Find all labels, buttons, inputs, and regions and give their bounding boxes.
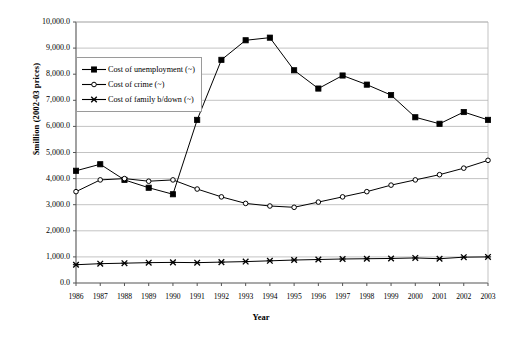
data-point-marker — [91, 67, 96, 72]
data-point-marker — [267, 258, 273, 264]
data-point-marker — [73, 168, 78, 173]
series-line — [76, 257, 488, 265]
data-point-marker — [437, 172, 442, 177]
series-cross-x — [73, 254, 491, 267]
data-point-marker — [97, 261, 103, 267]
data-point-marker — [365, 189, 370, 194]
x-axis-tick-labels: 1986198719881989199019911992199319941995… — [76, 293, 488, 307]
data-point-marker — [461, 109, 466, 114]
data-point-marker — [243, 201, 248, 206]
data-point-marker — [268, 204, 273, 209]
data-point-marker — [122, 176, 127, 181]
data-point-marker — [121, 260, 127, 266]
chart-legend: Cost of unemployment (~)Cost of crime (~… — [76, 57, 202, 112]
data-point-marker — [267, 35, 272, 40]
data-point-marker — [364, 82, 369, 87]
data-point-marker — [74, 189, 79, 194]
data-point-marker — [315, 257, 321, 263]
data-point-marker — [316, 86, 321, 91]
data-point-marker — [171, 178, 176, 183]
legend-marker-icon — [81, 64, 107, 75]
data-point-marker — [388, 92, 393, 97]
data-point-marker — [485, 117, 490, 122]
data-point-marker — [413, 115, 418, 120]
data-point-marker — [292, 68, 297, 73]
data-point-marker — [195, 187, 200, 192]
data-point-marker — [243, 38, 248, 43]
data-point-marker — [195, 117, 200, 122]
data-point-marker — [291, 257, 297, 263]
data-point-marker — [219, 57, 224, 62]
legend-label: Cost of crime (~) — [107, 80, 165, 89]
data-point-marker — [340, 195, 345, 200]
x-tick-label: 2003 — [468, 293, 508, 301]
data-point-marker — [219, 195, 224, 200]
data-point-marker — [170, 192, 175, 197]
plot-area — [0, 0, 522, 342]
data-point-marker — [292, 205, 297, 210]
chart-figure: $million (2002-03 prices) 10,000.09,000.… — [0, 0, 522, 342]
data-point-marker — [316, 200, 321, 205]
data-point-marker — [413, 178, 418, 183]
data-point-marker — [146, 179, 151, 184]
legend-label: Cost of family b/down (~) — [107, 95, 194, 104]
data-point-marker — [486, 158, 491, 163]
data-point-marker — [194, 260, 200, 266]
data-point-marker — [243, 259, 249, 265]
data-point-marker — [437, 121, 442, 126]
data-point-marker — [91, 97, 97, 103]
data-point-marker — [98, 162, 103, 167]
data-point-marker — [170, 260, 176, 266]
data-point-marker — [98, 178, 103, 183]
data-point-marker — [218, 259, 224, 265]
legend-item: Cost of crime (~) — [81, 77, 195, 92]
data-point-marker — [461, 254, 467, 260]
legend-marker-icon — [81, 94, 107, 105]
data-point-marker — [389, 183, 394, 188]
data-point-marker — [146, 260, 152, 266]
data-point-marker — [92, 82, 97, 87]
legend-label: Cost of unemployment (~) — [107, 65, 195, 74]
legend-item: Cost of unemployment (~) — [81, 62, 195, 77]
legend-item: Cost of family b/down (~) — [81, 92, 195, 107]
data-point-marker — [340, 73, 345, 78]
x-axis-title: Year — [0, 312, 522, 322]
data-point-marker — [146, 185, 151, 190]
data-point-marker — [412, 255, 418, 261]
data-point-marker — [461, 166, 466, 171]
legend-marker-icon — [81, 79, 107, 90]
